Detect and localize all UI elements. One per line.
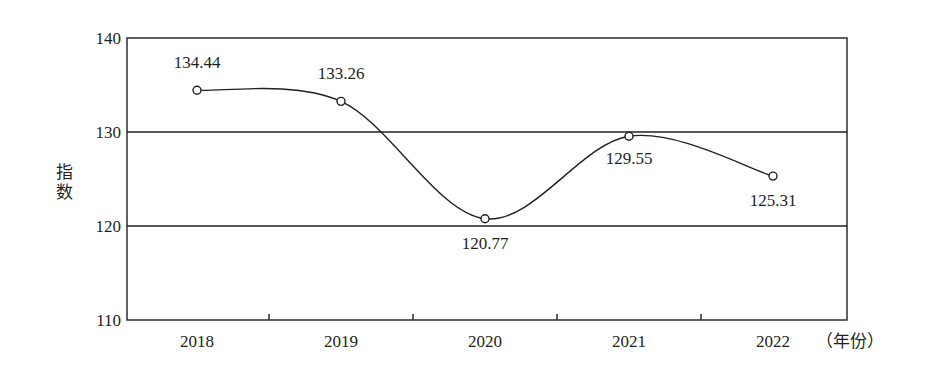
series-line <box>197 88 773 219</box>
y-tick-label: 120 <box>96 217 122 236</box>
data-label: 133.26 <box>318 64 365 83</box>
data-label: 120.77 <box>462 234 509 253</box>
y-tick-label: 140 <box>96 29 122 48</box>
y-axis-ticks: 110120130140 <box>96 29 122 330</box>
data-point-marker <box>769 172 777 180</box>
x-tick-label: 2021 <box>612 332 646 351</box>
data-markers <box>193 86 777 222</box>
x-tick-label: 2018 <box>180 332 214 351</box>
data-point-marker <box>625 132 633 140</box>
data-label: 134.44 <box>174 53 221 72</box>
plot-frame <box>127 38 847 320</box>
y-axis-title: 指 <box>56 162 73 182</box>
x-axis-title: （年份） <box>816 331 884 351</box>
data-point-marker <box>193 86 201 94</box>
y-tick-label: 130 <box>96 123 122 142</box>
y-axis-title: 数 <box>56 182 73 202</box>
data-point-marker <box>337 97 345 105</box>
gridlines <box>127 132 847 226</box>
data-point-marker <box>481 215 489 223</box>
data-label: 129.55 <box>606 149 653 168</box>
y-tick-label: 110 <box>96 311 121 330</box>
x-tick-label: 2019 <box>324 332 358 351</box>
line-chart: 110120130140 20182019202020212022 134.44… <box>0 0 936 385</box>
data-label: 125.31 <box>750 191 797 210</box>
x-tick-label: 2022 <box>756 332 790 351</box>
plot-border <box>127 38 847 320</box>
x-tick-label: 2020 <box>468 332 502 351</box>
